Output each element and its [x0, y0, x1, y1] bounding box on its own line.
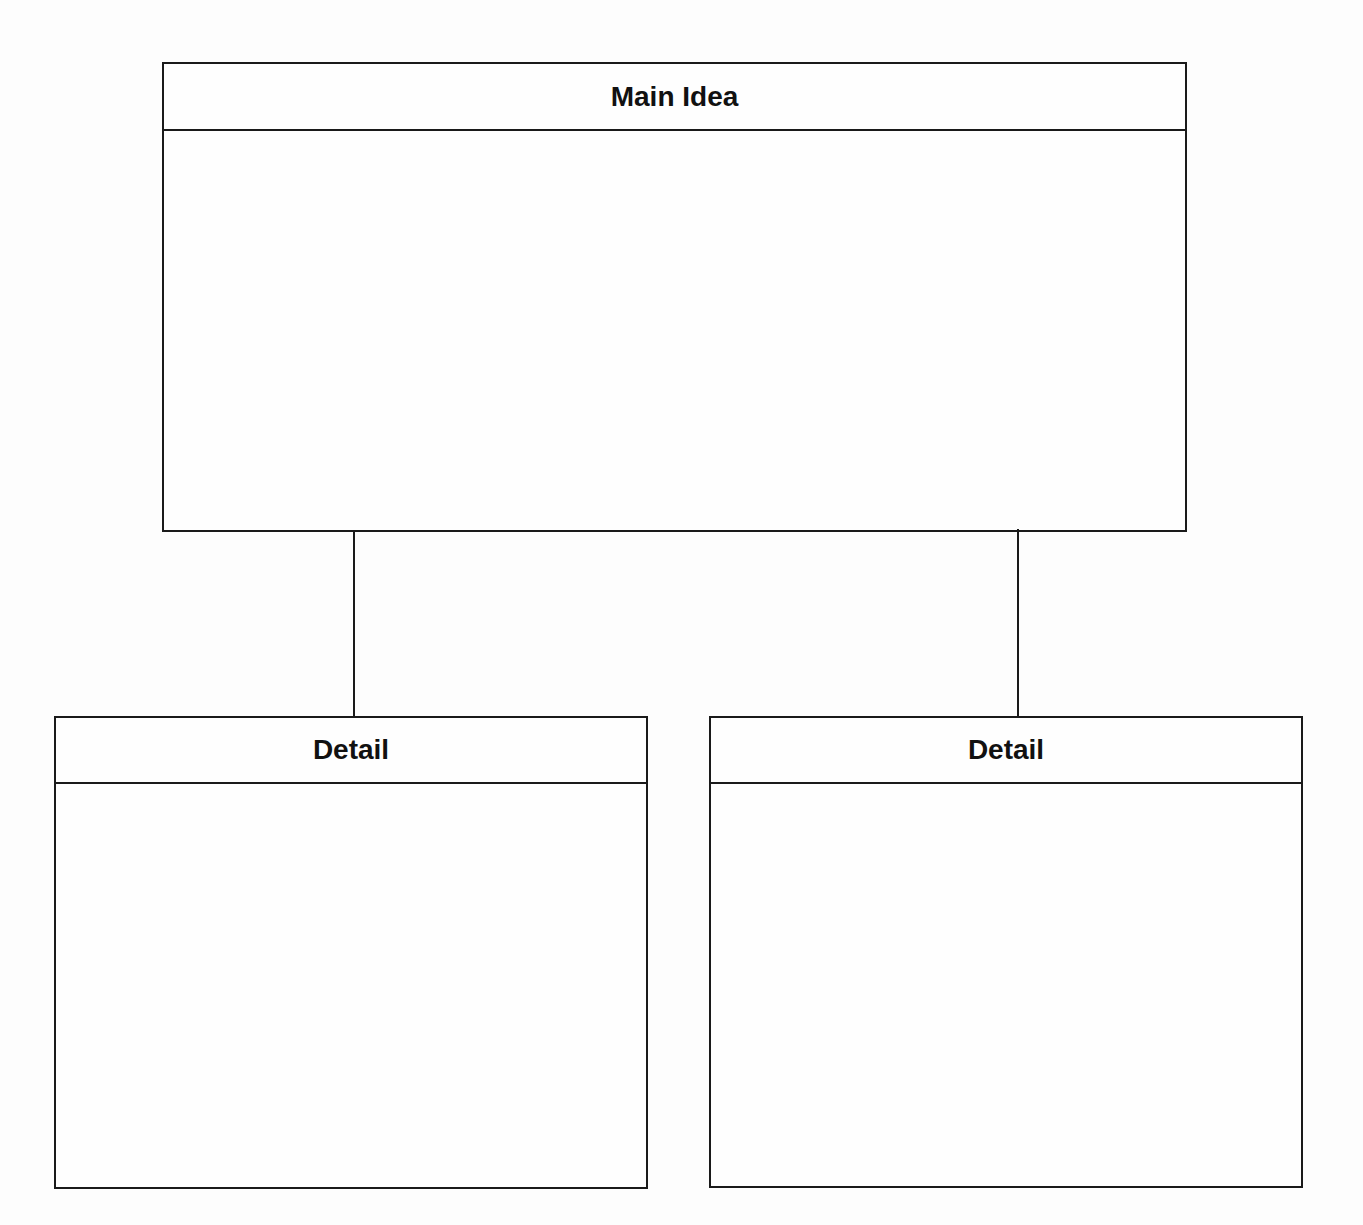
main-idea-header: Main Idea [164, 64, 1185, 131]
detail-title-right: Detail [968, 734, 1044, 766]
detail-box-right: Detail [709, 716, 1303, 1188]
detail-header-right: Detail [711, 718, 1301, 784]
main-idea-box: Main Idea [162, 62, 1187, 532]
detail-body-left[interactable] [56, 784, 646, 1187]
detail-body-right[interactable] [711, 784, 1301, 1186]
detail-title-left: Detail [313, 734, 389, 766]
main-idea-body[interactable] [164, 131, 1185, 530]
main-idea-title: Main Idea [611, 81, 739, 113]
detail-box-left: Detail [54, 716, 648, 1189]
connector-right [1017, 529, 1019, 717]
connector-left [353, 531, 355, 717]
detail-header-left: Detail [56, 718, 646, 784]
